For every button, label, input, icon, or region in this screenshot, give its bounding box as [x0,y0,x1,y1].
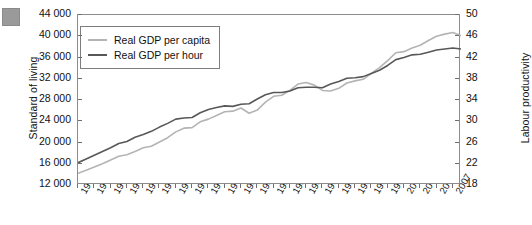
right-axis-tick-mark [455,163,459,164]
right-axis-tick-mark [455,120,459,121]
right-axis-tick-label: 22 [466,156,506,168]
right-axis-tick-label: 50 [466,7,506,19]
left-axis-tick-mark [78,99,82,100]
left-axis-tick-label: 24 000 [11,113,71,125]
bottom-axis-tick-mark [240,184,241,188]
left-axis-tick-label: 44 000 [11,7,71,19]
bottom-axis-tick-mark [387,184,388,188]
bottom-axis-tick-mark [273,184,274,188]
right-axis-tick-mark [455,35,459,36]
legend-line-swatch [88,39,107,41]
legend-item: Real GDP per hour [88,47,210,62]
bottom-axis-tick-mark [338,184,339,188]
right-axis-tick-mark [455,14,459,15]
bottom-axis-tick-mark [158,184,159,188]
bottom-axis-tick-mark [452,184,453,188]
bottom-axis-tick-mark [126,184,127,188]
right-axis-tick-label: 46 [466,28,506,40]
bottom-axis-tick-mark [93,184,94,188]
bottom-axis-tick-mark [354,184,355,188]
left-axis-tick-label: 12 000 [11,177,71,189]
chart-figure: Standard of living Labour productivity 1… [0,0,532,225]
right-axis-title: Labour productivity [519,13,531,183]
right-axis-tick-label: 38 [466,71,506,83]
right-axis-tick-mark [455,78,459,79]
left-axis-tick-label: 28 000 [11,92,71,104]
right-axis-tick-label: 30 [466,113,506,125]
bottom-axis-tick-mark [419,184,420,188]
bottom-axis-tick-mark [289,184,290,188]
bottom-axis-tick-mark [370,184,371,188]
right-axis-tick-label: 42 [466,50,506,62]
left-axis-tick-mark [78,163,82,164]
left-axis-tick-mark [78,14,82,15]
bottom-axis-tick-mark [224,184,225,188]
left-axis-tick-mark [78,35,82,36]
right-axis-tick-mark [455,57,459,58]
left-axis-tick-mark [78,142,82,143]
left-axis-tick-label: 20 000 [11,135,71,147]
legend-item-label: Real GDP per capita [114,34,210,46]
bottom-axis-tick-mark [436,184,437,188]
right-axis-tick-mark [455,142,459,143]
legend-item: Real GDP per capita [88,32,210,47]
bottom-axis-tick-mark [191,184,192,188]
bottom-axis-tick-mark [110,184,111,188]
left-axis-tick-label: 36 000 [11,50,71,62]
right-axis-tick-label: 34 [466,92,506,104]
bottom-axis-tick-mark [142,184,143,188]
bottom-axis-tick-mark [256,184,257,188]
left-axis-tick-mark [78,120,82,121]
bottom-axis-tick-mark [77,184,78,188]
bottom-axis-tick-mark [175,184,176,188]
chart-legend: Real GDP per capitaReal GDP per hour [80,26,220,69]
bottom-axis-tick-mark [207,184,208,188]
bottom-axis-tick-mark [305,184,306,188]
right-axis-tick-label: 26 [466,135,506,147]
bottom-axis-tick-mark [403,184,404,188]
legend-item-label: Real GDP per hour [114,49,203,61]
left-axis-tick-label: 32 000 [11,71,71,83]
bottom-axis-tick-mark [321,184,322,188]
legend-line-swatch [88,54,107,56]
left-axis-tick-mark [78,57,82,58]
left-axis-tick-mark [78,78,82,79]
right-axis-tick-mark [455,99,459,100]
left-axis-tick-label: 40 000 [11,28,71,40]
left-axis-tick-label: 16 000 [11,156,71,168]
